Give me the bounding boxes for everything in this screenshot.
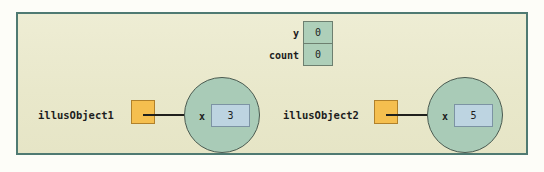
variable-value-count: 0: [315, 49, 321, 60]
variable-label-count: count: [269, 44, 299, 67]
field-name-x-2: x: [439, 107, 451, 125]
field-name-x-1: x: [196, 107, 208, 125]
object-group-2: illusObject2 x 5: [283, 77, 505, 155]
reference-label-illusObject2: illusObject2: [283, 101, 359, 129]
variable-label-y: y: [293, 22, 299, 45]
field-value-x-1: 3: [211, 104, 250, 127]
field-value-x-2: 5: [454, 104, 493, 127]
variable-value-y: 0: [315, 27, 321, 38]
object-circle-2: x 5: [427, 77, 503, 153]
diagram-canvas: y 0 count 0 illusObject1 x 3 illusObject…: [0, 0, 544, 172]
object-circle-1: x 3: [184, 77, 260, 153]
object-group-1: illusObject1 x 3: [38, 77, 260, 155]
reference-label-illusObject1: illusObject1: [38, 101, 114, 129]
variable-block: y 0 count 0: [303, 21, 333, 67]
variable-cell-count: count 0: [303, 43, 333, 66]
variable-cell-y: y 0: [303, 21, 333, 44]
